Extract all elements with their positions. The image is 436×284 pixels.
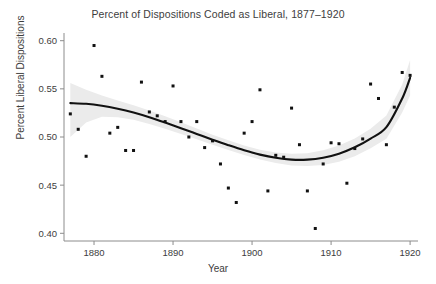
data-point [164,120,167,123]
data-point [100,75,103,78]
data-point [69,112,72,115]
data-point [140,81,143,84]
data-point [274,154,277,157]
data-point [298,143,301,146]
data-point [93,44,96,47]
data-point [124,149,127,152]
data-point [330,141,333,144]
data-point [179,120,182,123]
data-point [235,201,238,204]
data-point [377,97,380,100]
data-point [282,156,285,159]
data-point [385,143,388,146]
x-tick-label: 1890 [162,247,183,258]
data-point [322,162,325,165]
data-point [369,83,372,86]
data-point [172,84,175,87]
data-point [132,149,135,152]
chart-figure: Percent of Dispositions Coded as Liberal… [0,0,436,284]
data-point [156,114,159,117]
data-point [243,132,246,135]
data-point [251,120,254,123]
x-tick-label: 1880 [83,247,104,258]
y-tick-label: 0.45 [39,180,58,191]
data-point [227,187,230,190]
scatter-plot: 0.400.450.500.550.6018801890190019101920 [0,0,436,284]
y-tick-label: 0.50 [39,131,58,142]
y-tick-label: 0.55 [39,83,58,94]
data-point [290,107,293,110]
data-point [393,106,396,109]
data-point [314,227,317,230]
data-point [266,189,269,192]
data-point [195,120,198,123]
data-point [187,136,190,139]
data-point [401,71,404,74]
x-tick-label: 1920 [400,247,421,258]
data-point [258,88,261,91]
data-point [219,162,222,165]
data-point [353,147,356,150]
data-point [77,128,80,131]
data-point [203,146,206,149]
data-point [361,137,364,140]
data-point [85,155,88,158]
data-point [409,74,412,77]
data-point [116,126,119,129]
data-point [108,132,111,135]
data-point [337,142,340,145]
x-tick-label: 1900 [241,247,262,258]
x-tick-label: 1910 [321,247,342,258]
y-tick-label: 0.60 [39,35,58,46]
data-point [306,189,309,192]
data-point [345,182,348,185]
data-point [148,110,151,113]
data-point [211,139,214,142]
y-tick-label: 0.40 [39,228,58,239]
